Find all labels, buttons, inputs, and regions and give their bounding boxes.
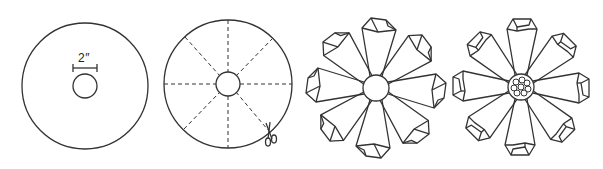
beads-center [511, 77, 531, 96]
step-3-flower [306, 18, 446, 158]
step-1-circle [22, 23, 148, 149]
diagram-stage: 2″ [0, 0, 603, 169]
step-4-flower-beaded [453, 19, 589, 155]
diagram-svg [0, 0, 603, 169]
step-2-segmented-circle [164, 20, 292, 148]
dimension-label: 2″ [78, 51, 90, 65]
